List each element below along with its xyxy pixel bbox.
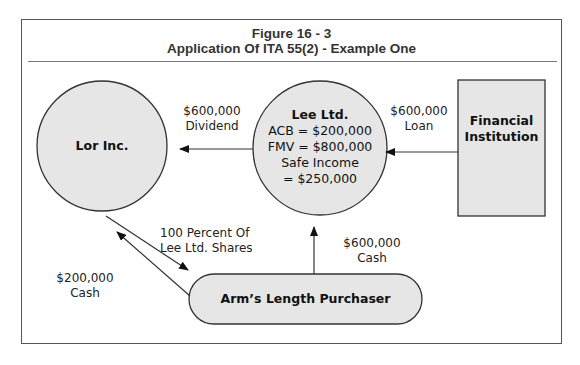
cash-to-lee-label: $600,000 Cash (334, 236, 410, 266)
lee-fmv: FMV = $800,000 (253, 139, 387, 155)
loan-type: Loan (381, 119, 457, 134)
lee-safe-income-label: Safe Income (253, 155, 387, 171)
dividend-type: Dividend (172, 119, 252, 134)
cash-to-lee-type: Cash (334, 251, 410, 266)
lee-ltd-label: Lee Ltd. (253, 107, 387, 123)
cash-to-lor-type: Cash (50, 286, 120, 301)
lor-inc-label: Lor Inc. (52, 138, 152, 154)
financial-institution-label: Financial Institution (458, 113, 545, 145)
lee-acb: ACB = $200,000 (253, 123, 387, 139)
loan-amount: $600,000 (381, 104, 457, 119)
purchaser-label: Arm’s Length Purchaser (189, 291, 422, 307)
shares-line2: Lee Ltd. Shares (160, 241, 270, 256)
loan-label: $600,000 Loan (381, 104, 457, 134)
dividend-label: $600,000 Dividend (172, 104, 252, 134)
shares-line1: 100 Percent Of (160, 226, 270, 241)
lee-safe-income-value: = $250,000 (253, 171, 387, 187)
dividend-amount: $600,000 (172, 104, 252, 119)
bank-label-line2: Institution (458, 129, 545, 145)
cash-to-lor-amount: $200,000 (50, 271, 120, 286)
financial-institution-node (458, 80, 545, 216)
cash-to-lee-amount: $600,000 (334, 236, 410, 251)
shares-label: 100 Percent Of Lee Ltd. Shares (160, 226, 270, 256)
bank-label-line1: Financial (458, 113, 545, 129)
cash-to-lor-label: $200,000 Cash (50, 271, 120, 301)
lee-ltd-details: Lee Ltd. ACB = $200,000 FMV = $800,000 S… (253, 107, 387, 187)
